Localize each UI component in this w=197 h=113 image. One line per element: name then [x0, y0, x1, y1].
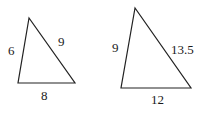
- small-triangle: 6 9 8: [8, 18, 75, 103]
- large-triangle-bottom-side-label: 12: [151, 92, 164, 107]
- small-triangle-bottom-side-label: 8: [41, 88, 48, 103]
- large-triangle-left-side-label: 9: [112, 40, 119, 55]
- small-triangle-right-side-label: 9: [58, 34, 65, 49]
- small-triangle-outline: [18, 18, 75, 83]
- similar-triangles-diagram: 6 9 8 9 13.5 12: [0, 0, 197, 113]
- large-triangle-right-side-label: 13.5: [171, 42, 194, 57]
- large-triangle: 9 13.5 12: [112, 8, 194, 107]
- small-triangle-left-side-label: 6: [8, 43, 15, 58]
